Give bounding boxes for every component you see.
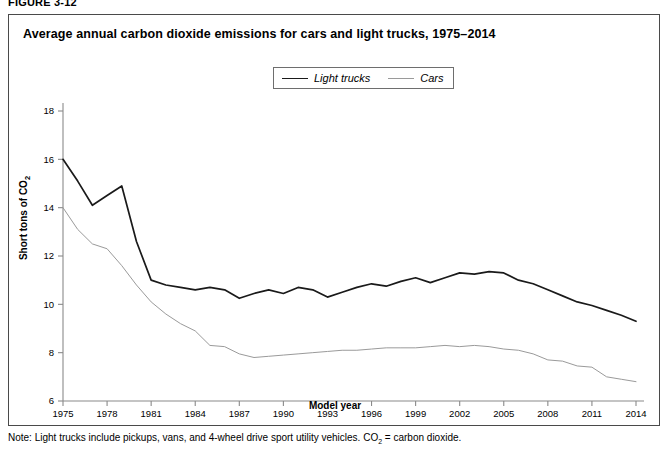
svg-text:10: 10 [43, 299, 54, 310]
figure-label: FIGURE 3-12 [8, 0, 77, 8]
figure-note-suffix: = carbon dioxide. [382, 432, 461, 443]
line-chart-svg: 6810121416181975197819811984198719901993… [9, 15, 661, 427]
axis-layer: 6810121416181975197819811984198719901993… [43, 103, 646, 419]
svg-text:8: 8 [49, 347, 54, 358]
svg-text:16: 16 [43, 154, 54, 165]
figure-note: Note: Light trucks include pickups, vans… [8, 432, 660, 445]
svg-text:14: 14 [43, 202, 54, 213]
y-axis-label-sub: 2 [23, 176, 32, 180]
y-axis-label: Short tons of CO2 [18, 158, 32, 278]
figure-note-prefix: Note: Light trucks include pickups, vans… [8, 432, 378, 443]
x-axis-label: Model year [9, 400, 661, 411]
y-axis-label-text: Short tons of CO [18, 180, 29, 260]
svg-text:12: 12 [43, 250, 54, 261]
figure-panel: Average annual carbon dioxide emissions … [8, 14, 660, 426]
chart-plot-area: 6810121416181975197819811984198719901993… [9, 15, 661, 427]
svg-text:18: 18 [43, 105, 54, 116]
series-layer [63, 159, 636, 381]
